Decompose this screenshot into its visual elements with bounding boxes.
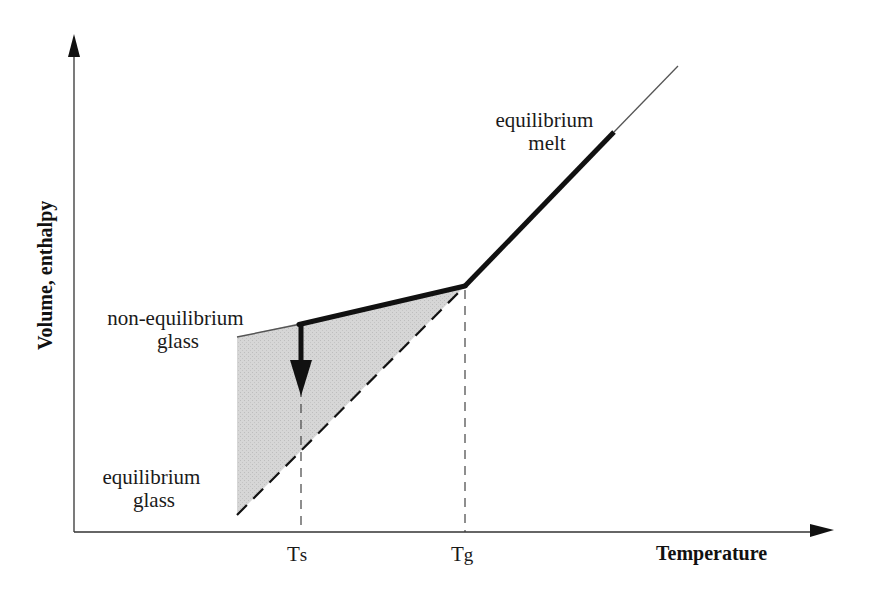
label-equilibrium-melt: equilibrium melt — [495, 108, 598, 155]
tick-ts: Ts — [287, 542, 307, 566]
glass-transition-diagram: Volume, enthalpy Temperature Ts Tg equil… — [0, 0, 874, 605]
x-axis-label: Temperature — [656, 542, 767, 565]
y-axis-arrow-icon — [68, 34, 80, 57]
x-axis-arrow-icon — [810, 524, 834, 537]
melt-thick-line — [465, 132, 614, 286]
melt-thin-line — [614, 66, 678, 132]
y-axis-label: Volume, enthalpy — [34, 201, 57, 350]
label-equilibrium-glass: equilibrium glass — [102, 465, 205, 512]
tick-tg: Tg — [451, 542, 474, 566]
label-noneq-glass: non-equilibrium glass — [107, 306, 249, 353]
